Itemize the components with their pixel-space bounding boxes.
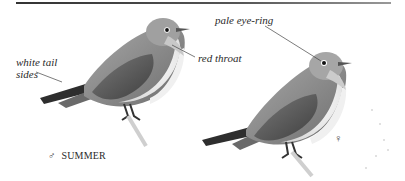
- annotation-pale-eye-ring: pale eye-ring: [215, 14, 273, 26]
- annotation-white-tail-line1: white tail: [16, 56, 57, 68]
- season-label: SUMMER: [61, 150, 106, 161]
- female-bird-illustration: [202, 52, 389, 176]
- female-symbol-icon: ♀: [334, 132, 342, 144]
- male-bird-illustration: [40, 18, 190, 146]
- male-symbol-icon: ♂: [48, 150, 56, 161]
- male-summer-caption: ♂ SUMMER: [48, 150, 106, 161]
- leader-pale-eye-ring: [265, 26, 321, 61]
- annotation-red-throat: red throat: [198, 52, 242, 64]
- annotation-white-tail-line2: sides: [16, 68, 57, 80]
- annotation-white-tail-sides: white tail sides: [16, 56, 57, 80]
